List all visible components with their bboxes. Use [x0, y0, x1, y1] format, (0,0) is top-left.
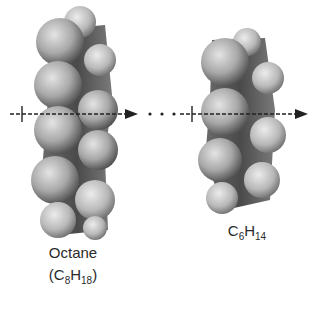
octane-name-label: Octane — [28, 244, 118, 261]
carbon-atom — [78, 130, 118, 170]
formula-part: H — [244, 222, 255, 239]
carbon-atom — [198, 138, 242, 182]
formula-part: H — [70, 266, 81, 283]
hydrogen-atom — [40, 202, 76, 238]
ellipsis-dot — [172, 112, 175, 115]
carbon-atom — [31, 156, 79, 204]
ellipsis-dot — [148, 112, 151, 115]
hydrogen-atom — [75, 180, 115, 220]
formula-part: ) — [92, 266, 97, 283]
hydrogen-atom — [252, 62, 284, 94]
formula-part: (C — [49, 266, 65, 283]
arrowhead-icon — [295, 109, 308, 119]
hydrogen-atom — [83, 216, 107, 240]
molecule-diagram: Octane (C8H18) C6H14 — [0, 0, 314, 330]
hydrogen-subscript: 18 — [81, 275, 92, 286]
carbon-atom — [78, 90, 118, 130]
octane-model — [31, 6, 118, 240]
formula-part: C — [228, 222, 239, 239]
octane-formula-label: (C8H18) — [28, 266, 118, 283]
hydrogen-atom — [84, 44, 116, 76]
carbon-atom — [201, 88, 249, 136]
ellipsis-dot — [160, 112, 163, 115]
carbon-atom — [36, 18, 84, 66]
hydrogen-atom — [244, 162, 280, 198]
arrowhead-icon — [125, 109, 138, 119]
carbon-atom — [34, 61, 82, 109]
hexane-model — [198, 28, 286, 214]
carbon-atom — [34, 106, 82, 154]
carbon-atom — [201, 38, 249, 86]
hydrogen-atom — [250, 117, 286, 153]
hexane-formula-label: C6H14 — [212, 222, 282, 239]
hydrogen-subscript: 14 — [255, 231, 266, 242]
hydrogen-atom — [206, 182, 238, 214]
